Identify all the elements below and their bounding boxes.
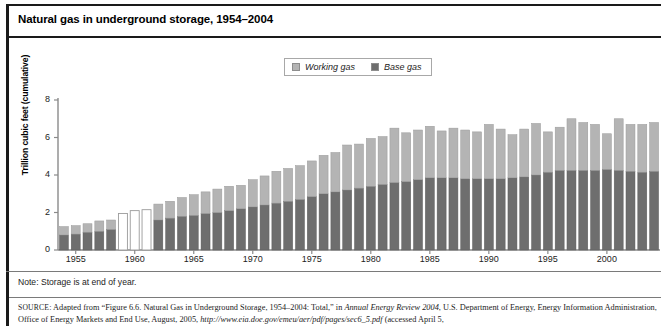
bar-1992 <box>508 135 517 250</box>
bar-1985 <box>425 126 434 250</box>
bar-1958 <box>107 220 116 250</box>
bar-1994 <box>532 123 541 250</box>
source-part-1: : Adapted from “Figure 6.6. Natural Gas … <box>49 303 344 312</box>
bar-1975 <box>307 161 316 250</box>
bar-1989 <box>473 132 482 250</box>
bar-2002 <box>626 124 635 250</box>
source-part-3: (accessed April 5, <box>383 315 444 324</box>
bar-1969 <box>236 185 245 250</box>
bar-1970 <box>248 180 257 250</box>
bar-1974 <box>295 166 304 250</box>
note-divider <box>6 271 661 272</box>
bar-1959 <box>118 213 127 250</box>
figure-container: Natural gas in underground storage, 1954… <box>0 0 667 326</box>
chart-note: Note: Storage is at end of year. <box>18 277 136 287</box>
x-tick-label: 1955 <box>59 254 93 264</box>
bar-1983 <box>402 133 411 250</box>
source-label: SOURCE <box>18 303 49 312</box>
x-tick-label: 1965 <box>177 254 211 264</box>
bar-1955 <box>71 226 80 250</box>
y-tick-label: 6 <box>36 132 50 142</box>
source-publication: Annual Energy Review 2004 <box>344 303 438 312</box>
source-citation: SOURCE: Adapted from “Figure 6.6. Natura… <box>18 302 658 325</box>
x-tick-label: 1980 <box>354 254 388 264</box>
bar-1996 <box>555 127 564 250</box>
bar-1997 <box>567 119 576 250</box>
bar-1972 <box>272 171 281 250</box>
bar-1965 <box>189 195 198 250</box>
bar-1991 <box>496 129 505 250</box>
y-tick-label: 8 <box>36 94 50 104</box>
x-tick-label: 1970 <box>236 254 270 264</box>
bar-1999 <box>591 124 600 250</box>
bar-1976 <box>319 155 328 250</box>
x-tick-label: 1985 <box>413 254 447 264</box>
y-axis-title: Trillion cubic feet (cumulative) <box>20 35 30 195</box>
bar-1962 <box>154 204 163 250</box>
bottom-left-divider <box>6 297 9 326</box>
bar-1956 <box>83 224 92 250</box>
bar-1980 <box>366 138 375 250</box>
bar-1995 <box>543 132 552 250</box>
bar-1988 <box>461 130 470 250</box>
bar-1993 <box>520 129 529 250</box>
bar-1982 <box>390 128 399 250</box>
bar-1963 <box>166 201 175 250</box>
bar-1954 <box>59 227 68 250</box>
bar-1981 <box>378 137 387 250</box>
bar-2004 <box>650 123 659 251</box>
source-divider <box>6 297 661 298</box>
bar-1973 <box>284 168 293 250</box>
y-tick-label: 4 <box>36 169 50 179</box>
x-tick-label: 1975 <box>295 254 329 264</box>
y-tick-label: 2 <box>36 207 50 217</box>
chart-plot-area: Trillion cubic feet (cumulative) 0246819… <box>0 0 667 275</box>
bar-1990 <box>484 124 493 250</box>
bar-1998 <box>579 123 588 251</box>
bar-2000 <box>602 134 611 250</box>
bar-1971 <box>260 176 269 250</box>
bar-chart-svg <box>0 0 667 275</box>
bar-2003 <box>638 124 647 250</box>
bar-1979 <box>355 144 364 250</box>
bar-1960 <box>130 211 139 250</box>
bar-1977 <box>331 153 340 251</box>
x-tick-label: 1995 <box>531 254 565 264</box>
bar-2001 <box>614 119 623 250</box>
bar-1967 <box>213 189 222 250</box>
bar-1966 <box>201 192 210 250</box>
bar-1984 <box>414 130 423 250</box>
bar-1986 <box>437 131 446 250</box>
bar-1964 <box>177 198 186 251</box>
y-tick-label: 0 <box>36 244 50 254</box>
x-tick-label: 2000 <box>590 254 624 264</box>
bar-1961 <box>142 210 151 250</box>
bar-1968 <box>225 186 234 250</box>
x-tick-label: 1990 <box>472 254 506 264</box>
bar-1978 <box>343 145 352 250</box>
bar-1957 <box>95 221 104 250</box>
x-tick-label: 1960 <box>118 254 152 264</box>
bar-1987 <box>449 128 458 250</box>
source-url: http://www.eia.doe.gov/emeu/aer/pdf/page… <box>200 315 382 324</box>
